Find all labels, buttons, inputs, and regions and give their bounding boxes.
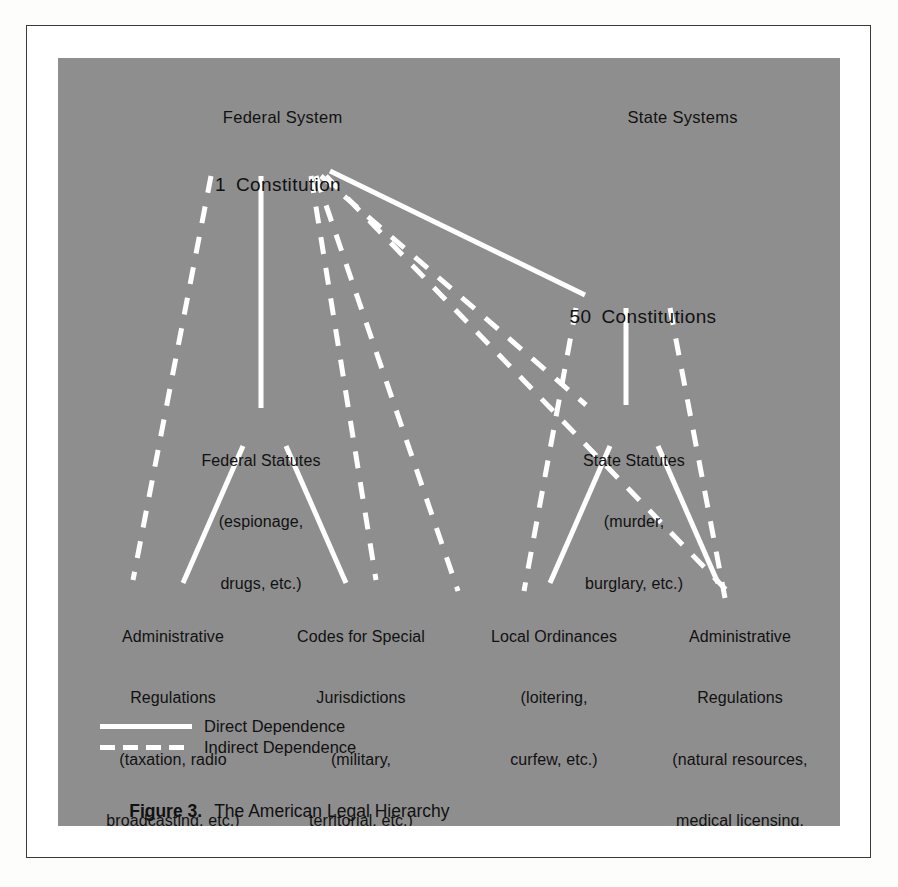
column-header-federal: Federal System <box>158 86 378 149</box>
legend-label-direct: Direct Dependence <box>204 717 345 736</box>
legend: Direct Dependence Indirect Dependence <box>100 716 430 758</box>
local-ordinances-line3: curfew, etc.) <box>459 750 649 770</box>
federal-admin-line2: Regulations <box>73 688 273 708</box>
federal-statutes-line1: Federal Statutes <box>171 451 351 471</box>
state-admin-line4: medical licensing, <box>640 811 840 826</box>
column-header-state-label: State Systems <box>628 108 738 126</box>
dashed-line-swatch-icon <box>100 737 192 758</box>
state-constitutions-count: 50 <box>570 306 592 327</box>
special-codes-line2: Jurisdictions <box>266 688 456 708</box>
solid-line-swatch-icon <box>100 716 192 737</box>
figure-page: Federal System State Systems 1Constituti… <box>0 0 898 887</box>
legend-item-direct: Direct Dependence <box>100 716 430 737</box>
local-ordinances-line1: Local Ordinances <box>459 627 649 647</box>
node-state-constitutions: 50Constitutions <box>516 281 736 354</box>
figure-panel: Federal System State Systems 1Constituti… <box>58 58 840 826</box>
node-federal-constitution: 1Constitution <box>151 149 371 222</box>
federal-constitution-label: Constitution <box>236 174 341 195</box>
figure-caption-title: The American Legal Hierarchy <box>214 801 449 821</box>
state-constitutions-label: Constitutions <box>601 306 716 327</box>
special-codes-line1: Codes for Special <box>266 627 456 647</box>
figure-caption: Figure 3.The American Legal Hierarchy <box>100 780 450 826</box>
federal-admin-line1: Administrative <box>73 627 273 647</box>
state-admin-line2: Regulations <box>640 688 840 708</box>
state-statutes-line1: State Statutes <box>544 451 724 471</box>
column-header-federal-label: Federal System <box>223 108 343 126</box>
local-ordinances-line2: (loitering, <box>459 688 649 708</box>
legend-item-indirect: Indirect Dependence <box>100 737 430 758</box>
column-header-state: State Systems <box>558 86 778 149</box>
federal-statutes-line2: (espionage, <box>171 512 351 532</box>
state-admin-line3: (natural resources, <box>640 750 840 770</box>
state-admin-line1: Administrative <box>640 627 840 647</box>
node-state-admin-regulations: Administrative Regulations (natural reso… <box>640 586 840 826</box>
legend-label-indirect: Indirect Dependence <box>204 738 356 757</box>
figure-caption-number: Figure 3. <box>129 801 202 821</box>
node-local-ordinances: Local Ordinances (loitering, curfew, etc… <box>459 586 649 811</box>
federal-constitution-count: 1 <box>215 174 226 195</box>
state-statutes-line2: (murder, <box>544 512 724 532</box>
